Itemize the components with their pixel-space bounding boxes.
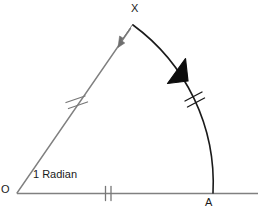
arc-path-xa <box>133 25 213 193</box>
vertex-label-a: A <box>205 197 213 208</box>
vertex-label-o: O <box>1 184 10 195</box>
radian-diagram: O X A 1 Radian <box>0 0 272 219</box>
geometry-canvas <box>0 0 272 219</box>
angle-caption-one-radian: 1 Radian <box>33 169 77 180</box>
arc-arrowhead-icon <box>168 59 189 84</box>
vertex-label-x: X <box>131 3 139 14</box>
